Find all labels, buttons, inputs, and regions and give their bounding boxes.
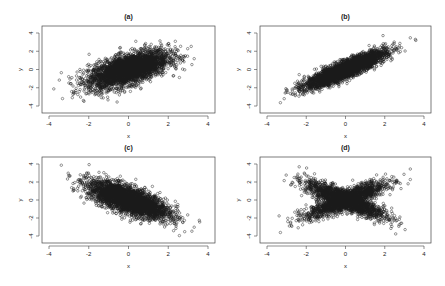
data-points [278, 166, 412, 236]
x-tick-label: -4 [264, 251, 270, 257]
x-tick-label: 2 [167, 121, 171, 127]
y-tick-label: 4 [246, 31, 252, 35]
x-tick-label: 4 [422, 121, 426, 127]
x-tick-label: 0 [127, 251, 131, 257]
y-tick-label: 4 [28, 31, 34, 35]
scatter-panel-c: -4-2024x-4-2024y(c) [17, 144, 215, 269]
x-tick-label: 0 [127, 121, 131, 127]
y-axis-label: y [235, 68, 241, 71]
y-axis: -4-2024 [28, 31, 39, 109]
panel-title: (b) [341, 13, 350, 21]
y-tick-label: -2 [28, 215, 34, 221]
x-axis-label: x [127, 133, 130, 139]
y-tick-label: -2 [28, 84, 34, 90]
x-tick-label: -2 [86, 251, 92, 257]
y-tick-label: 2 [28, 180, 34, 184]
x-tick-label: 4 [422, 251, 426, 257]
y-tick-label: 4 [28, 162, 34, 166]
scatter-panel-b: -4-2024x-4-2024y(b) [235, 13, 431, 139]
x-tick-label: 2 [383, 251, 387, 257]
x-axis-label: x [127, 263, 130, 269]
x-tick-label: -2 [304, 251, 310, 257]
data-points [279, 34, 417, 104]
y-tick-label: 2 [246, 180, 252, 184]
y-tick-label: 2 [246, 49, 252, 53]
x-tick-label: 4 [206, 251, 210, 257]
data-points [60, 163, 201, 237]
y-tick-label: 2 [28, 49, 34, 53]
y-tick-label: 0 [28, 198, 34, 202]
figure-svg: -4-2024x-4-2024y(a)-4-2024x-4-2024y(b)-4… [0, 0, 445, 286]
x-tick-label: 0 [344, 251, 348, 257]
x-axis: -4-2024 [46, 116, 210, 127]
x-tick-label: 2 [383, 121, 387, 127]
x-tick-label: -2 [86, 121, 92, 127]
data-points [53, 40, 196, 104]
x-axis-label: x [344, 263, 347, 269]
y-tick-label: 0 [246, 198, 252, 202]
y-axis-label: y [17, 68, 23, 71]
y-tick-label: -2 [246, 215, 252, 221]
x-axis: -4-2024 [46, 246, 210, 257]
y-tick-label: 0 [28, 67, 34, 71]
scatter-panel-a: -4-2024x-4-2024y(a) [17, 13, 215, 139]
x-tick-label: 4 [206, 121, 210, 127]
x-tick-label: -4 [46, 121, 52, 127]
y-tick-label: 4 [246, 162, 252, 166]
y-tick-label: -4 [28, 103, 34, 109]
x-tick-label: 2 [167, 251, 171, 257]
y-tick-label: -4 [246, 233, 252, 239]
x-tick-label: -2 [304, 121, 310, 127]
y-axis: -4-2024 [28, 162, 39, 239]
panel-title: (d) [341, 144, 350, 152]
panel-title: (a) [124, 13, 133, 21]
scatter-panel-d: -4-2024x-4-2024y(d) [235, 144, 431, 269]
y-axis: -4-2024 [246, 162, 257, 239]
y-tick-label: -2 [246, 84, 252, 90]
x-axis: -4-2024 [264, 116, 426, 127]
x-axis: -4-2024 [264, 246, 426, 257]
y-axis-label: y [17, 199, 23, 202]
x-tick-label: -4 [264, 121, 270, 127]
y-axis: -4-2024 [246, 31, 257, 109]
y-tick-label: -4 [28, 233, 34, 239]
y-axis-label: y [235, 199, 241, 202]
x-tick-label: -4 [46, 251, 52, 257]
y-tick-label: -4 [246, 103, 252, 109]
scatter-plot-grid: -4-2024x-4-2024y(a)-4-2024x-4-2024y(b)-4… [0, 0, 445, 286]
panel-title: (c) [124, 144, 133, 152]
x-axis-label: x [344, 133, 347, 139]
x-tick-label: 0 [344, 121, 348, 127]
y-tick-label: 0 [246, 67, 252, 71]
